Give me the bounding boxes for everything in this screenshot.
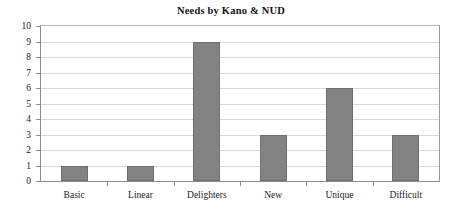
x-axis-tick-label: Delighters — [174, 190, 240, 201]
bar — [193, 42, 220, 182]
bar — [260, 135, 287, 182]
y-axis-tick-label: 8 — [5, 52, 31, 62]
y-axis-tick-label: 5 — [5, 99, 31, 109]
bar — [61, 166, 88, 182]
bar-chart: Needs by Kano & NUD 012345678910BasicLin… — [0, 0, 462, 212]
plot-area — [40, 25, 440, 182]
x-axis-tick — [107, 182, 108, 186]
y-axis-tick-label: 3 — [5, 130, 31, 140]
x-axis-tick — [174, 182, 175, 186]
bar — [127, 166, 154, 182]
y-axis-tick — [36, 181, 40, 182]
y-axis-tick-label: 7 — [5, 68, 31, 78]
x-axis-tick — [240, 182, 241, 186]
x-axis-tick-label: Unique — [306, 190, 372, 201]
y-axis-tick — [36, 88, 40, 89]
y-axis-tick — [36, 150, 40, 151]
x-axis-tick-label: Basic — [41, 190, 107, 201]
y-axis-tick-label: 9 — [5, 37, 31, 47]
bars-group — [41, 26, 439, 181]
chart-title: Needs by Kano & NUD — [0, 5, 462, 16]
x-axis-tick — [373, 182, 374, 186]
bar — [326, 88, 353, 181]
y-axis-tick-label: 0 — [5, 176, 31, 186]
y-axis-tick — [36, 104, 40, 105]
y-axis-tick — [36, 26, 40, 27]
y-axis-tick — [36, 42, 40, 43]
y-axis-tick-label: 1 — [5, 161, 31, 171]
y-axis-tick — [36, 166, 40, 167]
bar — [392, 135, 419, 182]
y-axis-tick-label: 10 — [5, 21, 31, 31]
y-axis-tick-label: 6 — [5, 83, 31, 93]
y-axis-tick — [36, 73, 40, 74]
y-axis-tick — [36, 135, 40, 136]
x-axis-tick — [306, 182, 307, 186]
y-axis-tick — [36, 57, 40, 58]
y-axis-tick — [36, 119, 40, 120]
y-axis-tick-label: 2 — [5, 145, 31, 155]
x-axis-tick-label: New — [240, 190, 306, 201]
y-axis-tick-label: 4 — [5, 114, 31, 124]
x-axis-tick-label: Linear — [107, 190, 173, 201]
x-axis-tick-label: Difficult — [373, 190, 439, 201]
